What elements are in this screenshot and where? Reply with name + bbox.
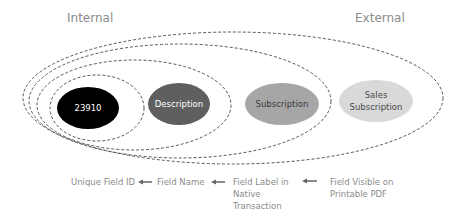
- node-field-label: Subscription: [245, 83, 319, 125]
- node-text: Sales: [365, 90, 388, 100]
- caption-field-visible: Field Visible on Printable PDF: [330, 176, 393, 200]
- left-arrow-icon: [302, 179, 317, 184]
- node-field-visible: Sales Subscription: [339, 80, 413, 122]
- caption-line: Field Label in: [233, 176, 289, 188]
- node-text: Description: [155, 99, 203, 109]
- caption-line: Field Visible on: [330, 176, 393, 188]
- node-text: 23910: [74, 103, 101, 113]
- caption-field-name: Field Name: [157, 176, 204, 188]
- node-unique-field-id: 23910: [57, 87, 119, 129]
- caption-unique-field-id: Unique Field ID: [71, 176, 135, 188]
- caption-line: Transaction: [233, 200, 289, 212]
- left-arrow-icon: [138, 180, 152, 185]
- caption-field-label: Field Label in Native Transaction: [233, 176, 289, 212]
- caption-line: Native: [233, 188, 289, 200]
- node-text: Subscription: [256, 99, 309, 109]
- node-field-name: Description: [148, 83, 210, 125]
- caption-line: Printable PDF: [330, 188, 393, 200]
- left-arrow-icon: [211, 180, 225, 185]
- node-text: Subscription: [350, 102, 403, 112]
